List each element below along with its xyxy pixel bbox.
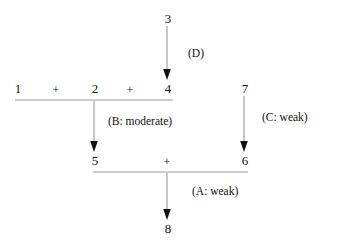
arrow-b-head [90, 141, 98, 152]
node-4: 4 [161, 82, 175, 95]
node-5: 5 [88, 154, 102, 167]
node-1: 1 [11, 82, 25, 95]
edge-label-d: (D) [188, 47, 204, 59]
node-3: 3 [161, 12, 175, 25]
operator-plus-1: + [49, 84, 63, 96]
arrow-a-head [163, 209, 171, 220]
arrow-c-head [240, 141, 248, 152]
edge-label-c: (C: weak) [262, 111, 308, 123]
node-6: 6 [238, 154, 252, 167]
operator-plus-3: + [160, 156, 174, 168]
node-2: 2 [88, 82, 102, 95]
edge-label-a: (A: weak) [192, 185, 238, 197]
operator-plus-2: + [123, 84, 137, 96]
edge-label-b: (B: moderate) [108, 115, 172, 127]
arrow-d-head [163, 69, 171, 80]
node-8: 8 [161, 222, 175, 235]
node-7: 7 [238, 82, 252, 95]
reaction-flow-diagram: 1 2 4 3 7 5 6 8 + + + (D) (B: moderate) … [0, 0, 337, 244]
